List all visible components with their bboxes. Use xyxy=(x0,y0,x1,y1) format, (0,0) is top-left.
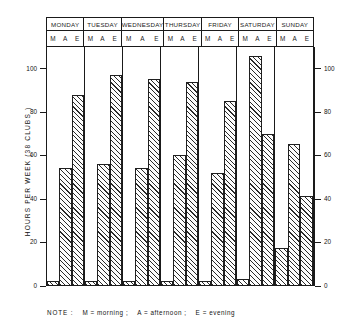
day-header-label: WEDNESDAY xyxy=(122,18,164,31)
y-tick-label-left-0: 0 xyxy=(33,283,37,289)
day-header-wednesday: WEDNESDAYMAE xyxy=(122,18,165,46)
bar-cell xyxy=(47,47,59,285)
bar-friday-a[interactable] xyxy=(211,173,223,286)
day-header-thursday: THURSDAYMAE xyxy=(164,18,201,46)
y-tick-right-0 xyxy=(315,286,321,287)
day-header-sunday: SUNDAYMAE xyxy=(277,18,313,46)
slot-label-e: E xyxy=(301,31,313,46)
bar-tuesday-m[interactable] xyxy=(85,281,97,285)
bar-monday-a[interactable] xyxy=(59,168,71,285)
bar-cell xyxy=(224,47,236,285)
plot-area xyxy=(46,47,314,286)
day-slot-row: MAE xyxy=(277,31,313,46)
day-header-tuesday: TUESDAYMAE xyxy=(84,18,121,46)
slot-label-m: M xyxy=(239,31,251,46)
bar-thursday-a[interactable] xyxy=(173,155,185,285)
note-label: NOTE : xyxy=(47,309,73,316)
y-tick-label-left-40: 40 xyxy=(30,196,37,202)
y-tick-left-0 xyxy=(40,286,46,287)
y-tick-left-20 xyxy=(40,242,46,243)
bar-saturday-e[interactable] xyxy=(262,134,274,285)
slot-label-a: A xyxy=(59,31,71,46)
day-slot-row: MAE xyxy=(122,31,164,46)
bar-friday-m[interactable] xyxy=(199,281,211,285)
day-group-thursday xyxy=(161,47,199,285)
slot-label-a: A xyxy=(97,31,109,46)
bar-cell xyxy=(72,47,84,285)
y-axis-right-line xyxy=(314,47,315,286)
bar-saturday-m[interactable] xyxy=(237,279,249,285)
y-axis-left-line xyxy=(46,47,47,286)
day-header-label: SUNDAY xyxy=(277,18,313,31)
bar-tuesday-e[interactable] xyxy=(110,75,122,285)
day-header-label: SATURDAY xyxy=(239,18,275,31)
bar-friday-e[interactable] xyxy=(224,101,236,285)
note-item-a: A = afternoon ; xyxy=(137,309,186,316)
y-tick-label-right-60: 60 xyxy=(324,152,331,158)
y-tick-label-left-100: 100 xyxy=(26,66,37,72)
bar-wednesday-a[interactable] xyxy=(135,168,147,285)
bar-sunday-a[interactable] xyxy=(288,144,301,285)
day-group-sunday xyxy=(275,47,313,285)
note-item-e: E = evening xyxy=(196,309,235,316)
slot-label-a: A xyxy=(289,31,301,46)
slot-label-e: E xyxy=(263,31,275,46)
bar-monday-e[interactable] xyxy=(72,95,84,285)
bar-cell xyxy=(300,47,313,285)
bar-cell xyxy=(110,47,122,285)
y-tick-right-80 xyxy=(315,112,321,113)
bar-thursday-m[interactable] xyxy=(161,281,173,285)
y-tick-left-60 xyxy=(40,155,46,156)
slot-label-a: A xyxy=(177,31,189,46)
bar-cell xyxy=(275,47,288,285)
y-tick-label-right-40: 40 xyxy=(324,196,331,202)
bar-monday-m[interactable] xyxy=(47,281,59,285)
y-tick-left-80 xyxy=(40,112,46,113)
slot-label-e: E xyxy=(226,31,238,46)
day-header-monday: MONDAYMAE xyxy=(47,18,84,46)
day-header-saturday: SATURDAYMAE xyxy=(239,18,276,46)
bar-sunday-e[interactable] xyxy=(300,196,313,285)
y-tick-label-right-20: 20 xyxy=(324,239,331,245)
bar-cell xyxy=(173,47,185,285)
bar-cell xyxy=(211,47,223,285)
y-tick-right-20 xyxy=(315,242,321,243)
slot-label-m: M xyxy=(202,31,214,46)
bar-cell xyxy=(148,47,160,285)
day-group-wednesday xyxy=(123,47,161,285)
day-header-table: MONDAYMAETUESDAYMAEWEDNESDAYMAETHURSDAYM… xyxy=(46,17,314,47)
bar-cell xyxy=(123,47,135,285)
slot-label-a: A xyxy=(214,31,226,46)
bar-wednesday-e[interactable] xyxy=(148,79,160,285)
bar-tuesday-a[interactable] xyxy=(97,164,109,285)
day-slot-row: MAE xyxy=(164,31,200,46)
bar-thursday-e[interactable] xyxy=(186,82,198,285)
day-slot-row: MAE xyxy=(202,31,238,46)
bar-wednesday-m[interactable] xyxy=(123,281,135,285)
day-header-label: MONDAY xyxy=(47,18,83,31)
day-slot-row: MAE xyxy=(47,31,83,46)
slot-label-a: A xyxy=(251,31,263,46)
slot-label-e: E xyxy=(109,31,121,46)
day-header-label: THURSDAY xyxy=(164,18,200,31)
bar-sunday-m[interactable] xyxy=(275,248,288,285)
day-group-monday xyxy=(47,47,85,285)
y-tick-label-right-100: 100 xyxy=(324,66,335,72)
slot-label-m: M xyxy=(84,31,96,46)
bar-saturday-a[interactable] xyxy=(249,56,261,285)
slot-label-m: M xyxy=(47,31,59,46)
slot-label-m: M xyxy=(164,31,176,46)
y-tick-right-60 xyxy=(315,155,321,156)
bar-cell xyxy=(249,47,261,285)
slot-label-a: A xyxy=(136,31,150,46)
bar-cell xyxy=(97,47,109,285)
bar-cell xyxy=(288,47,301,285)
chart-note: NOTE :M = morning ;A = afternoon ;E = ev… xyxy=(47,309,235,316)
bar-cell xyxy=(199,47,211,285)
bar-cell xyxy=(135,47,147,285)
day-header-label: TUESDAY xyxy=(84,18,120,31)
y-tick-label-left-80: 80 xyxy=(30,109,37,115)
bar-cell xyxy=(85,47,97,285)
day-group-saturday xyxy=(237,47,275,285)
y-tick-left-40 xyxy=(40,199,46,200)
